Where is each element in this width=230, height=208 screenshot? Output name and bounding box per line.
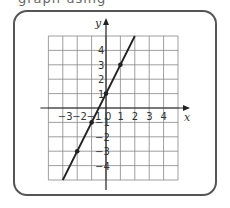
y-axis-label: y (94, 17, 102, 30)
y-tick-label: −4 (95, 161, 110, 172)
data-point (104, 91, 109, 96)
coordinate-plane: xy−3−2−1012344321−1−2−3−4 (0, 0, 230, 208)
x-tick-label: 3 (146, 111, 152, 122)
data-point (89, 120, 94, 125)
data-point (75, 149, 80, 154)
y-tick-label: −3 (95, 146, 110, 157)
x-tick-label: −2 (72, 111, 87, 122)
y-tick-label: 4 (98, 45, 104, 56)
x-tick-label: −3 (58, 111, 73, 122)
y-tick-label: −2 (95, 132, 110, 143)
data-point (118, 63, 123, 68)
x-tick-label: 1 (117, 111, 123, 122)
y-axis-arrow-icon (103, 18, 109, 25)
y-tick-label: 3 (98, 60, 104, 71)
y-tick-label: −1 (95, 117, 110, 128)
x-axis-label: x (184, 111, 191, 124)
x-tick-label: 4 (161, 111, 167, 122)
y-tick-label: 2 (98, 74, 104, 85)
x-tick-label: 2 (132, 111, 138, 122)
